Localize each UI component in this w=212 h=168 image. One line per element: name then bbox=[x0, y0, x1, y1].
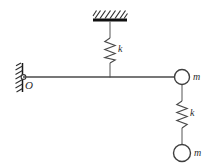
bottom-mass-label: m bbox=[194, 147, 201, 158]
bottom-mass-circle bbox=[174, 145, 191, 162]
diagram-svg: k O m bbox=[0, 0, 212, 168]
physics-diagram-canvas: k O m bbox=[0, 0, 212, 168]
ceiling-bar bbox=[93, 19, 127, 22]
lower-spring-assembly: k bbox=[177, 85, 195, 145]
upper-spring-coil bbox=[105, 38, 115, 63]
bottom-mass-group: m bbox=[174, 145, 202, 162]
origin-label: O bbox=[25, 79, 33, 91]
fixed-ceiling-support bbox=[93, 11, 128, 22]
right-mass-label: m bbox=[193, 71, 200, 82]
upper-spring-assembly: k bbox=[105, 22, 123, 78]
lower-spring-coil bbox=[177, 101, 187, 128]
upper-spring-label: k bbox=[118, 43, 123, 54]
lower-spring-label: k bbox=[190, 107, 195, 118]
right-mass-group: m bbox=[175, 70, 201, 85]
ceiling-hatch-group bbox=[93, 11, 128, 19]
right-mass-circle bbox=[175, 70, 190, 85]
